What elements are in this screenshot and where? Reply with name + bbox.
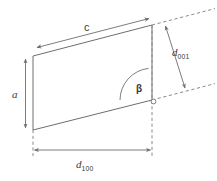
crystal-unit-cell-figure: c a β d001 d100	[0, 0, 217, 181]
dashed-guide-lines	[33, 9, 215, 156]
label-d100-subscript: 100	[82, 165, 94, 172]
label-angle-beta: β	[136, 84, 142, 94]
unit-cell-diagram-svg	[0, 0, 217, 181]
dashed-line-lower	[152, 84, 215, 100]
origin-circle	[151, 99, 156, 104]
c-dimension-arrow	[37, 19, 149, 48]
unit-cell-parallelogram	[33, 25, 152, 130]
beta-angle-arc	[120, 68, 149, 100]
label-d001-base: d	[172, 46, 178, 58]
label-edge-c: c	[84, 22, 90, 33]
label-edge-a: a	[12, 89, 18, 100]
beta-arc-path	[120, 68, 149, 100]
c-arrow-line	[37, 19, 149, 48]
label-d001-subscript: 001	[178, 53, 190, 60]
label-d001: d001	[172, 47, 189, 58]
label-d100-base: d	[76, 158, 82, 170]
vertex-origin-marker	[151, 99, 156, 104]
parallelogram-outline	[33, 25, 152, 130]
dashed-line-upper	[152, 9, 215, 25]
label-d100: d100	[76, 159, 93, 170]
